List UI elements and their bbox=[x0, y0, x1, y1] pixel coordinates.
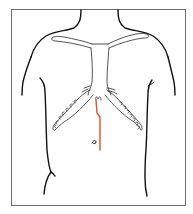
figure-frame bbox=[12, 10, 186, 206]
incision-line bbox=[96, 100, 100, 150]
clavicles bbox=[52, 33, 149, 48]
torso-sides bbox=[40, 78, 154, 196]
rib-ends-right bbox=[120, 102, 140, 129]
torso-diagram bbox=[0, 0, 193, 214]
sternum bbox=[88, 44, 111, 100]
diagram-canvas: Anterior torso with midline incision lin… bbox=[0, 0, 193, 214]
umbilicus bbox=[92, 141, 96, 144]
costal-margin-left bbox=[53, 86, 93, 130]
neck-outline bbox=[31, 10, 168, 57]
